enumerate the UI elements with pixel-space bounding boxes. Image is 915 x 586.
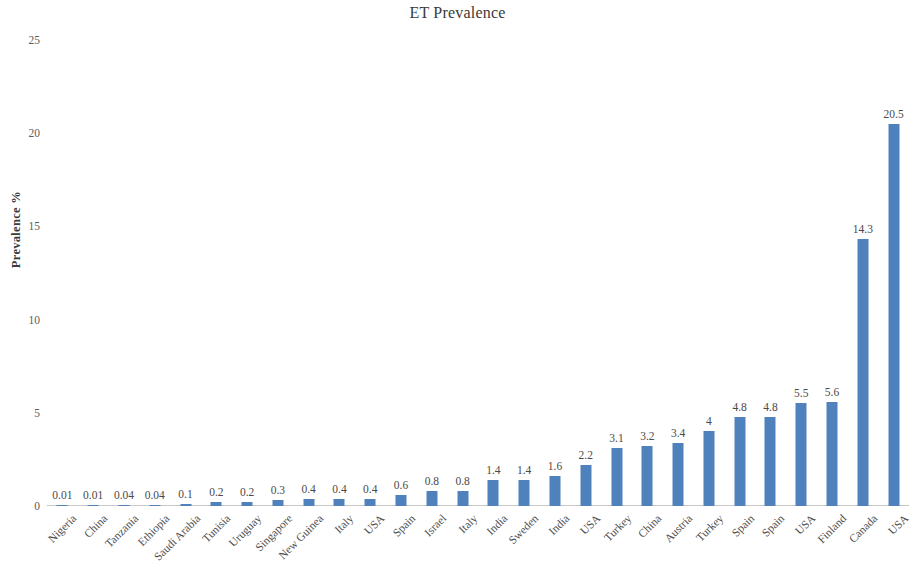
bar[interactable] — [303, 499, 314, 506]
bar[interactable] — [642, 446, 653, 506]
x-axis-tick-label-text: Austria — [662, 512, 694, 544]
bar-slot: 14.3 — [847, 40, 878, 506]
bar-slot: 5.5 — [786, 40, 817, 506]
bar[interactable] — [611, 448, 622, 506]
x-axis-tick-label-text: Turkey — [694, 512, 726, 544]
x-axis-tick-label: USA — [362, 512, 387, 537]
bar[interactable] — [519, 480, 530, 506]
x-axis-tick-label: USA — [577, 512, 602, 537]
bar[interactable] — [457, 491, 468, 506]
bar-slot: 0.8 — [447, 40, 478, 506]
x-axis-tick-label-text: USA — [577, 512, 602, 537]
bar-slot: 1.6 — [540, 40, 571, 506]
y-axis-tick-label: 10 — [0, 314, 40, 326]
x-axis-tick-label: Israel — [422, 512, 449, 539]
bar-value-label: 4 — [706, 415, 712, 427]
bar[interactable] — [57, 505, 68, 506]
bar-slot: 0.4 — [324, 40, 355, 506]
x-axis-tick-label: Spain — [729, 512, 756, 539]
bar-slot: 5.6 — [817, 40, 848, 506]
bar-slot: 0.01 — [78, 40, 109, 506]
bar-slot: 1.4 — [478, 40, 509, 506]
bar-slot: 0.4 — [293, 40, 324, 506]
x-axis-tick-label: Turkey — [694, 512, 726, 544]
x-axis-tick-label-text: India — [485, 512, 510, 537]
bar-value-label: 14.3 — [853, 223, 873, 235]
bar-value-label: 3.4 — [671, 427, 685, 439]
x-axis-tick-label-text: China — [82, 512, 110, 540]
x-axis-tick-label-text: Tanzania — [103, 512, 141, 550]
bar[interactable] — [703, 431, 714, 506]
bar[interactable] — [426, 491, 437, 506]
bar-value-label: 2.2 — [579, 449, 593, 461]
bar-slot: 0.8 — [416, 40, 447, 506]
bar[interactable] — [211, 502, 222, 506]
bar-value-label: 0.8 — [425, 475, 439, 487]
x-axis-tick-label: Italy — [456, 512, 479, 535]
bar[interactable] — [488, 480, 499, 506]
bar[interactable] — [857, 239, 868, 506]
x-axis-tick-label-text: China — [636, 512, 664, 540]
bar-value-label: 20.5 — [884, 108, 904, 120]
y-axis-tick-label: 25 — [0, 34, 40, 46]
x-axis-tick-label: Spain — [760, 512, 787, 539]
bar-slot: 0.1 — [170, 40, 201, 506]
x-axis-tick-label: China — [636, 512, 664, 540]
bar-slot: 20.5 — [878, 40, 909, 506]
bar[interactable] — [365, 499, 376, 506]
x-axis-tick-label: USA — [885, 512, 910, 537]
x-axis-tick-label: Finland — [815, 512, 848, 545]
x-axis-tick-label-text: Spain — [729, 512, 756, 539]
bar[interactable] — [827, 402, 838, 506]
bar[interactable] — [180, 504, 191, 506]
bar-slot: 3.1 — [601, 40, 632, 506]
y-axis-tick-label: 15 — [0, 220, 40, 232]
chart-page: ET Prevalence Prevalence % 0510152025 0.… — [0, 0, 915, 586]
bar-slot: 3.2 — [632, 40, 663, 506]
x-axis-tick-label: Canada — [846, 512, 879, 545]
bar-slot: 0.4 — [355, 40, 386, 506]
bar[interactable] — [272, 500, 283, 506]
x-axis-tick-labels: NigeriaChinaTanzaniaEthiopiaSaudi Arabia… — [47, 508, 909, 586]
bar[interactable] — [734, 417, 745, 506]
bar-value-label: 0.2 — [209, 486, 223, 498]
bar[interactable] — [88, 505, 99, 506]
bar[interactable] — [334, 499, 345, 506]
x-axis-tick-label: Sweden — [506, 512, 540, 546]
bar-slot: 2.2 — [570, 40, 601, 506]
bar-series: 0.010.010.040.040.10.20.20.30.40.40.40.6… — [47, 40, 909, 506]
x-axis-tick-label: Nigeria — [46, 512, 79, 545]
x-axis-tick-label-text: Spain — [391, 512, 418, 539]
bar-value-label: 0.04 — [114, 489, 134, 501]
bar-slot: 0.04 — [109, 40, 140, 506]
x-axis-tick-label-text: Israel — [422, 512, 449, 539]
bar[interactable] — [549, 476, 560, 506]
bar[interactable] — [673, 443, 684, 506]
x-axis-tick-label-text: India — [546, 512, 571, 537]
bar[interactable] — [796, 403, 807, 506]
bar-value-label: 0.8 — [455, 475, 469, 487]
bar-slot: 1.4 — [509, 40, 540, 506]
x-axis-tick-label-text: Italy — [456, 512, 479, 535]
bar[interactable] — [580, 465, 591, 506]
bar-slot: 4.8 — [724, 40, 755, 506]
bar-value-label: 0.6 — [394, 479, 408, 491]
x-axis-tick-label-text: Nigeria — [46, 512, 79, 545]
x-axis-tick-label-text: Finland — [815, 512, 848, 545]
bar[interactable] — [242, 502, 253, 506]
bar-value-label: 0.04 — [145, 489, 165, 501]
bar-value-label: 5.6 — [825, 386, 839, 398]
bar[interactable] — [149, 505, 160, 506]
bar[interactable] — [396, 495, 407, 506]
x-axis-tick-label: Spain — [391, 512, 418, 539]
x-axis-tick-label-text: USA — [793, 512, 818, 537]
bar[interactable] — [888, 124, 899, 506]
x-axis-tick-label-text: Sweden — [506, 512, 540, 546]
bar[interactable] — [118, 505, 129, 506]
x-axis-tick-label: Turkey — [601, 512, 633, 544]
chart-title: ET Prevalence — [0, 4, 915, 22]
bar-slot: 4 — [694, 40, 725, 506]
bar[interactable] — [765, 417, 776, 506]
bar-value-label: 0.1 — [178, 488, 192, 500]
bar-value-label: 4.8 — [732, 401, 746, 413]
